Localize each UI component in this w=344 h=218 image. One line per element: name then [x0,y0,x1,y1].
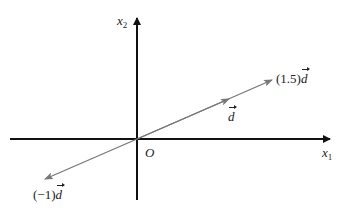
x1-axis-label: x1 [322,146,332,162]
vector-neg-d [45,139,137,179]
vector-diagram [0,0,344,218]
x2-axis-label: x2 [117,14,127,30]
vector-1-5d-label: (1.5)d [276,72,307,85]
vector-neg-d-label: (−1)d [33,188,62,201]
origin-label: O [145,146,154,159]
vector-d-label: d [228,110,235,123]
vector-d [137,99,229,139]
